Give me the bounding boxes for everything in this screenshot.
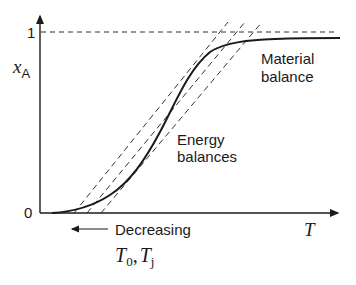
diagram-canvas: xA 1 0 T Material balance Energy balance… [0,0,356,285]
material-balance-label-line1: Material [261,50,314,67]
energy-balance-line-1 [74,22,228,213]
energy-balances-label-line2: balances [177,148,237,165]
material-balance-label-line2: balance [261,68,314,85]
y-axis-label: xA [12,56,30,81]
energy-balance-line-3 [101,22,262,213]
x-axis-label: T [304,219,316,240]
y-tick-0: 0 [24,204,32,221]
decreasing-label: Decreasing [115,221,191,238]
energy-balance-line-2 [87,22,245,213]
energy-balances-label-line1: Energy [177,131,225,148]
feed-and-jacket-temperature-label: T0,Tj [115,244,154,269]
y-tick-1: 1 [27,24,35,41]
